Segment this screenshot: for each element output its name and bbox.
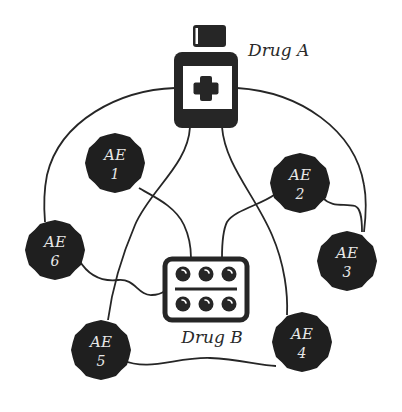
edge-drugb-ae1 <box>139 188 191 258</box>
ae-number: 2 <box>295 186 305 202</box>
drug-ae-diagram: Drug A Drug B <box>0 0 402 412</box>
ae-title: AE <box>42 233 66 251</box>
ae-node-2[interactable]: AE 2 <box>270 153 330 213</box>
drug-a-node[interactable]: Drug A <box>174 25 309 128</box>
ae-number: 4 <box>297 345 307 361</box>
ae-number: 5 <box>97 353 106 369</box>
ae-title: AE <box>287 166 311 184</box>
ae-node-1[interactable]: AE 1 <box>85 133 145 193</box>
ae-title: AE <box>289 325 313 343</box>
edge-ae2-ae3 <box>323 198 362 232</box>
edge-drugb-ae2 <box>222 195 274 258</box>
drug-b-label: Drug B <box>180 327 242 347</box>
ae-title: AE <box>88 333 112 351</box>
drug-a-label: Drug A <box>247 40 309 60</box>
ae-number: 1 <box>111 166 120 182</box>
edge-ae5-ae4 <box>122 358 276 366</box>
ae-title: AE <box>102 146 126 164</box>
pill-blister-pack-icon <box>165 259 247 320</box>
ae-number: 6 <box>51 253 60 269</box>
ae-node-4[interactable]: AE 4 <box>272 312 332 372</box>
ae-number: 3 <box>343 264 352 280</box>
drug-b-node[interactable]: Drug B <box>165 259 247 347</box>
ae-node-3[interactable]: AE 3 <box>317 231 377 291</box>
medicine-bottle-icon <box>174 25 238 128</box>
ae-node-5[interactable]: AE 5 <box>71 320 131 380</box>
edge-drugb-ae6 <box>79 260 165 295</box>
ae-title: AE <box>334 244 358 262</box>
ae-node-6[interactable]: AE 6 <box>25 220 85 280</box>
